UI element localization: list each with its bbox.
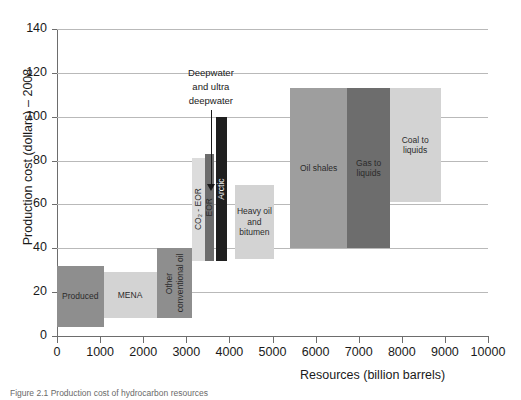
x-tick bbox=[229, 337, 230, 343]
y-tick bbox=[52, 117, 57, 118]
annotation-arrow-shaft bbox=[211, 110, 212, 185]
x-tick bbox=[143, 337, 144, 343]
annotation-arrow-head bbox=[207, 184, 215, 191]
y-tick-label: 120 bbox=[0, 65, 47, 79]
x-tick bbox=[186, 337, 187, 343]
x-tick-label: 10000 bbox=[458, 345, 518, 359]
x-tick bbox=[273, 337, 274, 343]
x-tick bbox=[100, 337, 101, 343]
y-tick-label: 60 bbox=[0, 196, 47, 210]
y-tick-label: 0 bbox=[0, 328, 47, 342]
annotation-line: deepwater bbox=[156, 94, 266, 108]
annotation-line: and ultra bbox=[156, 80, 266, 94]
x-tick bbox=[57, 337, 58, 343]
y-tick bbox=[52, 29, 57, 30]
gridline bbox=[57, 29, 488, 30]
x-tick bbox=[402, 337, 403, 343]
y-tick bbox=[52, 204, 57, 205]
x-tick bbox=[359, 337, 360, 343]
bar-label: Other conventional oil bbox=[157, 248, 192, 318]
y-tick-label: 20 bbox=[0, 284, 47, 298]
x-axis-title: Resources (billion barrels) bbox=[300, 368, 445, 382]
bar-label: MENA bbox=[104, 272, 157, 318]
x-tick bbox=[316, 337, 317, 343]
y-tick-label: 40 bbox=[0, 240, 47, 254]
y-tick bbox=[52, 248, 57, 249]
y-tick bbox=[52, 73, 57, 74]
bar-gas-to-liquids: Gas to liquids bbox=[347, 88, 389, 248]
x-tick bbox=[445, 337, 446, 343]
y-tick-label: 140 bbox=[0, 21, 47, 35]
bar-coal-to-liquids: Coal to liquids bbox=[390, 88, 441, 202]
x-tick bbox=[488, 337, 489, 343]
bar-eor: EOR bbox=[205, 154, 214, 261]
bar-label: Produced bbox=[57, 266, 104, 327]
bar-heavy-oil-and-bitumen: Heavy oil and bitumen bbox=[235, 185, 274, 260]
bar-arctic: Arctic bbox=[216, 117, 227, 262]
annotation-line: Deepwater bbox=[156, 66, 266, 80]
bar-mena: MENA bbox=[104, 272, 157, 318]
figure-production-cost-chart: Production cost (dollars) – 2008 Resourc… bbox=[0, 0, 521, 400]
bar-label: Gas to liquids bbox=[347, 88, 389, 248]
bar-other-conventional-oil: Other conventional oil bbox=[157, 248, 192, 318]
bar-label: Coal to liquids bbox=[390, 88, 441, 202]
bar-oil-shales: Oil shales bbox=[290, 88, 348, 248]
bar-label: EOR bbox=[205, 154, 214, 261]
y-tick-label: 80 bbox=[0, 153, 47, 167]
bar-label: Heavy oil and bitumen bbox=[235, 185, 274, 260]
y-tick-label: 100 bbox=[0, 109, 47, 123]
annotation-text: Deepwaterand ultradeepwater bbox=[156, 66, 266, 107]
y-tick bbox=[52, 161, 57, 162]
figure-caption: Figure 2.1 Production cost of hydrocarbo… bbox=[10, 388, 208, 398]
bar-label: Oil shales bbox=[290, 88, 348, 248]
gridline bbox=[57, 73, 488, 74]
bar-produced: Produced bbox=[57, 266, 104, 327]
bar-label: Arctic bbox=[216, 117, 227, 262]
